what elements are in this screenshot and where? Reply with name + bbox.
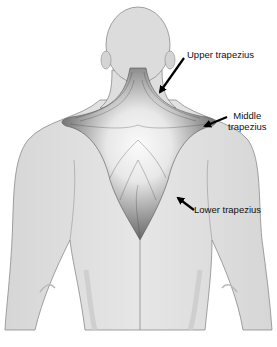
label-middle-line2: trapezius — [228, 121, 267, 132]
label-upper-text: Upper trapezius — [187, 49, 254, 60]
label-lower-text: Lower trapezius — [194, 204, 261, 215]
right-ear — [165, 51, 175, 69]
label-lower-trapezius: Lower trapezius — [194, 204, 261, 215]
label-upper-trapezius: Upper trapezius — [187, 49, 254, 60]
label-middle-line1: Middle — [228, 110, 267, 121]
label-middle-trapezius: Middle trapezius — [228, 110, 267, 132]
left-ear — [101, 51, 111, 69]
